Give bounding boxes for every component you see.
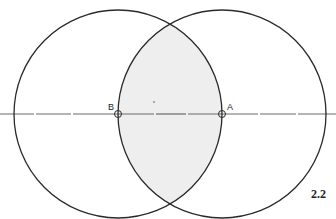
center-dot [153, 101, 155, 103]
figure-number: 2.2 [311, 187, 326, 201]
point-b-label: B [108, 102, 114, 112]
point-a-label: A [227, 102, 233, 112]
vesica-piscis-diagram: B A 2.2 [0, 0, 336, 219]
